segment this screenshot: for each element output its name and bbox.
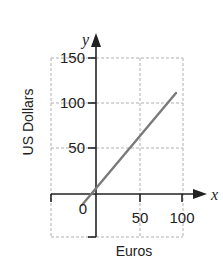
x-axis-title: Euros xyxy=(116,243,153,259)
x-axis xyxy=(51,194,200,202)
y-tick-50: 50 xyxy=(68,139,85,156)
y-tick-100: 100 xyxy=(60,94,85,111)
y-tick-150: 150 xyxy=(60,49,85,66)
y-axis xyxy=(88,46,96,237)
x-variable-label: x xyxy=(210,186,218,203)
x-tick-100: 100 xyxy=(169,209,194,226)
x-tick-50: 50 xyxy=(132,209,149,226)
y-axis-arrow-icon xyxy=(91,33,101,47)
chart: y x 150 100 50 0 50 100 Euros US Dollars xyxy=(0,0,223,261)
y-axis-title: US Dollars xyxy=(20,89,36,156)
y-variable-label: y xyxy=(80,31,90,49)
origin-label: 0 xyxy=(79,200,87,217)
x-axis-arrow-icon xyxy=(193,189,207,199)
